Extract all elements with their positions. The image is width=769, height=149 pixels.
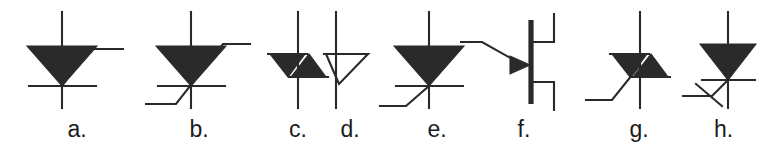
symbol-f-label: f. [460,118,588,141]
symbol-a: a. [18,0,136,149]
symbol-h: h. [678,0,769,149]
symbol-h-label: h. [678,118,769,141]
scr-gate-through-lower-left-icon [138,4,260,116]
symbol-a-label: a. [18,118,136,141]
thyristor-symbol-figure: a. b. c. d. [0,0,769,149]
symbol-f: f. [460,0,588,149]
scr-gate-upper-right-icon [18,4,136,116]
igbt-device-icon [460,4,588,116]
symbol-b-label: b. [138,118,260,141]
symbol-d-label: d. [314,118,386,141]
symbol-d: d. [314,0,386,149]
open-triangle-device-icon [314,4,386,116]
scr-crossed-gate-lead-icon [678,4,769,116]
symbol-b: b. [138,0,260,149]
